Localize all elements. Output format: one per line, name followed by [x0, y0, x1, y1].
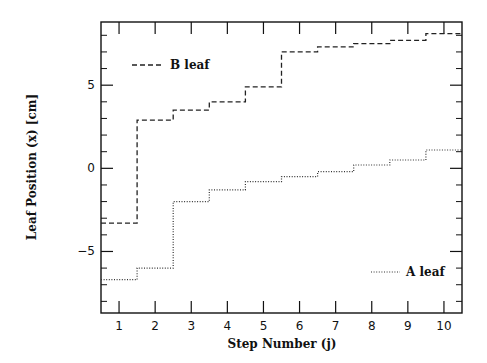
x-tick-label: 2	[151, 319, 159, 333]
x-tick-label: 6	[296, 319, 304, 333]
x-axis-title: Step Number (j)	[227, 337, 336, 351]
y-tick-label: 5	[87, 78, 95, 92]
y-tick-label: 0	[87, 161, 95, 175]
x-axis-ticks: 12345678910	[115, 22, 451, 333]
y-tick-label: −5	[77, 244, 95, 258]
y-axis-ticks: −505	[77, 35, 462, 301]
y-axis-title: Leaf Position (x) [cm]	[25, 94, 39, 240]
step-chart: 12345678910 −505 B leaf A leaf Step Numb…	[0, 0, 487, 363]
x-tick-label: 8	[368, 319, 376, 333]
legend-b-leaf-label: B leaf	[170, 58, 210, 72]
x-tick-label: 5	[260, 319, 268, 333]
x-tick-label: 1	[115, 319, 123, 333]
b-leaf-line	[101, 34, 462, 224]
x-tick-label: 9	[404, 319, 412, 333]
legend-b-leaf: B leaf	[132, 58, 210, 72]
x-tick-label: 4	[224, 319, 232, 333]
legend-a-leaf: A leaf	[371, 265, 445, 279]
x-tick-label: 3	[187, 319, 195, 333]
x-tick-label: 7	[332, 319, 340, 333]
series-layer	[101, 34, 462, 280]
legend-a-leaf-label: A leaf	[405, 265, 445, 279]
a-leaf-line	[101, 150, 462, 280]
x-tick-label: 10	[436, 319, 451, 333]
